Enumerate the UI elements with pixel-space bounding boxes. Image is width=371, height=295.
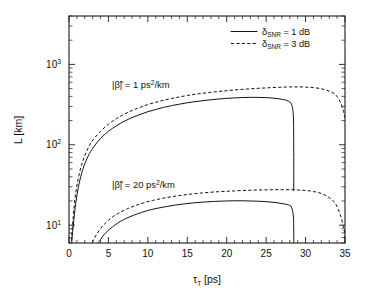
- x-tick-label: 35: [339, 248, 351, 259]
- log-line-chart: 05101520253035 101102103 τT [ps] L [km] …: [0, 0, 371, 295]
- y-tick-label: 103: [46, 58, 61, 70]
- y-axis-ticks: [69, 64, 345, 225]
- x-tick-label: 5: [106, 248, 112, 259]
- annotation-2-suffix: /km: [160, 179, 175, 190]
- y-tick-label: 102: [46, 138, 61, 150]
- svg-text:|β̃| = 20 ps2/km: |β̃| = 20 ps2/km: [112, 179, 175, 190]
- svg-text:|β̃| = 1 ps2/km: |β̃| = 1 ps2/km: [112, 79, 170, 90]
- x-tick-label: 15: [182, 248, 194, 259]
- x-tick-label: 25: [261, 248, 273, 259]
- annotation-beta-20: |β̃| = 20 ps2/km: [112, 179, 175, 190]
- x-axis-tick-labels: 05101520253035: [66, 248, 351, 259]
- y-axis-title-unit: [km]: [12, 116, 24, 136]
- x-tick-label: 30: [300, 248, 312, 259]
- annotation-2-prefix: |β̃| = 20 ps: [112, 179, 156, 190]
- data-curves: [71, 87, 345, 243]
- y-axis-tick-labels: 101102103: [46, 58, 61, 231]
- curve-series-3: [92, 190, 345, 243]
- svg-text:τT [ps]: τT [ps]: [193, 273, 221, 287]
- x-tick-label: 0: [66, 248, 72, 259]
- annotation-beta-1: |β̃| = 1 ps2/km: [112, 79, 170, 90]
- x-axis-title: τT [ps]: [193, 273, 221, 287]
- legend: δSNR = 1 dB δSNR = 3 dB: [231, 27, 310, 50]
- x-axis-title-unit: [ps]: [204, 273, 221, 285]
- curve-series-0: [72, 97, 294, 242]
- x-tick-label: 20: [221, 248, 233, 259]
- y-axis-title: L [km]: [12, 116, 24, 144]
- x-tick-label: 10: [142, 248, 154, 259]
- annotation-1-prefix: |β̃| = 1 ps: [112, 79, 151, 90]
- legend-label-1: δSNR = 1 dB: [262, 27, 310, 38]
- legend-label-2: δSNR = 3 dB: [262, 39, 310, 50]
- figure-container: 05101520253035 101102103 τT [ps] L [km] …: [0, 0, 371, 295]
- svg-text:L [km]: L [km]: [12, 116, 24, 144]
- x-axis-minor-ticks: [77, 16, 337, 243]
- annotation-1-suffix: /km: [154, 79, 169, 90]
- curve-series-2: [99, 201, 294, 243]
- y-tick-label: 101: [46, 219, 61, 231]
